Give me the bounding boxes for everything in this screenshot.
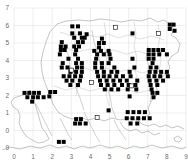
filled-record-square: [147, 57, 151, 61]
x-tick-label: 1: [31, 153, 35, 160]
open-record-square: [130, 84, 134, 88]
x-tick-label: 0: [12, 153, 16, 160]
filled-record-square: [147, 48, 151, 52]
filled-record-square: [67, 74, 71, 78]
filled-record-square: [158, 74, 162, 78]
filled-record-square: [93, 61, 97, 65]
filled-record-square: [78, 31, 82, 35]
filled-record-square: [102, 41, 106, 45]
filled-record-square: [103, 87, 107, 91]
filled-record-square: [66, 57, 70, 61]
filled-record-square: [76, 83, 80, 87]
filled-record-square: [36, 95, 40, 99]
filled-record-square: [130, 116, 134, 120]
filled-record-square: [152, 48, 156, 52]
filled-record-square: [156, 48, 160, 52]
filled-record-square: [143, 110, 147, 114]
filled-record-square: [53, 90, 57, 94]
filled-record-square: [161, 48, 165, 52]
filled-record-square: [48, 90, 52, 94]
filled-record-square: [107, 49, 111, 53]
filled-record-square: [111, 79, 115, 83]
filled-record-square: [147, 52, 151, 56]
filled-record-square: [47, 94, 51, 98]
filled-record-square: [99, 83, 103, 87]
filled-record-square: [161, 79, 165, 83]
filled-record-square: [131, 110, 135, 114]
filled-record-square: [73, 122, 77, 126]
filled-record-square: [100, 61, 104, 65]
y-tick-label: 9: [5, 144, 9, 151]
filled-record-square: [74, 48, 78, 52]
filled-record-square: [147, 74, 151, 78]
filled-record-square: [37, 91, 41, 95]
filled-record-square: [130, 31, 134, 35]
filled-record-square: [132, 66, 136, 70]
filled-record-square: [60, 40, 64, 44]
filled-record-square: [172, 23, 176, 27]
filled-record-square: [168, 27, 172, 31]
plot-background: [0, 0, 188, 164]
filled-record-square: [62, 140, 66, 144]
distribution-map-figure: 0123456789 765432109: [0, 0, 188, 164]
filled-record-square: [23, 91, 27, 95]
filled-record-square: [95, 52, 99, 56]
filled-record-square: [125, 116, 129, 120]
filled-record-square: [137, 110, 141, 114]
filled-record-square: [121, 74, 125, 78]
filled-record-square: [155, 83, 159, 87]
y-tick-label: 3: [5, 74, 9, 81]
filled-record-square: [75, 66, 79, 70]
y-tick-label: 2: [5, 92, 9, 99]
filled-record-square: [109, 70, 113, 74]
x-tick-label: 3: [70, 153, 74, 160]
filled-record-square: [68, 83, 72, 87]
filled-record-square: [152, 95, 156, 99]
filled-record-square: [77, 45, 81, 49]
open-record-square: [113, 25, 117, 29]
open-record-square: [156, 31, 160, 35]
filled-record-square: [108, 52, 112, 56]
filled-record-square: [102, 52, 106, 56]
filled-record-square: [102, 74, 106, 78]
filled-record-square: [109, 57, 113, 61]
filled-record-square: [97, 45, 101, 49]
filled-record-square: [72, 45, 76, 49]
x-tick-label: 9: [184, 153, 188, 160]
y-tick-label: 1: [5, 109, 9, 116]
filled-record-square: [74, 61, 78, 65]
filled-record-square: [98, 79, 102, 83]
filled-record-square: [78, 79, 82, 83]
filled-record-square: [152, 52, 156, 56]
filled-record-square: [120, 83, 124, 87]
filled-record-square: [135, 79, 139, 83]
filled-record-square: [99, 49, 103, 53]
filled-record-square: [97, 41, 101, 45]
open-record-square: [69, 68, 73, 72]
filled-record-square: [115, 70, 119, 74]
filled-record-square: [134, 87, 138, 91]
filled-record-square: [79, 117, 83, 121]
filled-record-square: [135, 122, 139, 126]
filled-record-square: [148, 70, 152, 74]
filled-record-square: [31, 95, 35, 99]
filled-record-square: [25, 95, 29, 99]
x-tick-label: 8: [165, 153, 169, 160]
filled-record-square: [155, 91, 159, 95]
filled-record-square: [128, 70, 132, 74]
open-record-square: [89, 80, 93, 84]
y-tick-label: 4: [5, 57, 9, 64]
filled-record-square: [142, 116, 146, 120]
filled-record-square: [107, 108, 111, 112]
filled-record-square: [109, 87, 113, 91]
filled-record-square: [108, 74, 112, 78]
filled-record-square: [149, 83, 153, 87]
filled-record-square: [80, 70, 84, 74]
filled-record-square: [112, 66, 116, 70]
filled-record-square: [74, 117, 78, 121]
filled-record-square: [149, 66, 153, 70]
filled-record-square: [96, 74, 100, 78]
filled-record-square: [112, 83, 116, 87]
filled-record-square: [100, 37, 104, 41]
filled-record-square: [130, 57, 134, 61]
